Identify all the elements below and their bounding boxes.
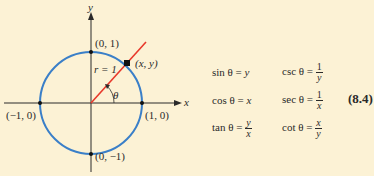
sin-formula: sin θ = y: [212, 66, 249, 86]
x-axis-arrow-icon: [174, 100, 182, 106]
point-terminal-label: (x, y): [135, 58, 158, 69]
point-top-label: (0, 1): [95, 38, 119, 49]
point-left: [38, 101, 42, 105]
point-terminal: [124, 60, 130, 66]
tan-formula: tan θ = yx: [212, 118, 252, 138]
point-right-label: (1, 0): [145, 110, 169, 121]
cos-formula: cos θ = x: [212, 94, 251, 114]
point-right: [140, 101, 144, 105]
point-bottom-label: (0, −1): [95, 151, 125, 162]
cot-formula: cot θ = xy: [282, 118, 322, 138]
y-axis-arrow-icon: [88, 12, 94, 20]
equation-number: (8.4): [348, 91, 373, 107]
x-axis-label: x: [184, 97, 189, 108]
radius-label: r = 1: [94, 64, 117, 75]
angle-label: θ: [113, 90, 118, 101]
point-bottom: [89, 152, 93, 156]
csc-formula: csc θ = 1y: [282, 62, 323, 82]
sec-formula: sec θ = 1x: [282, 90, 323, 110]
point-left-label: (−1, 0): [6, 110, 36, 121]
y-axis-label: y: [88, 2, 93, 13]
point-top: [89, 50, 93, 54]
